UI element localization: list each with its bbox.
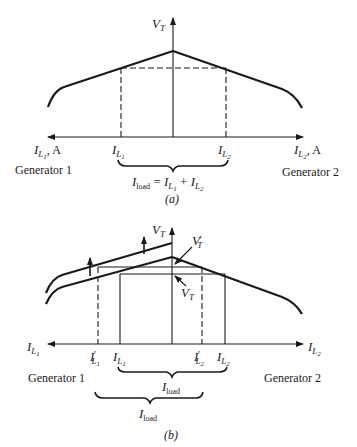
load-brace-upper [118, 367, 227, 377]
generator1-curve [48, 51, 173, 107]
vt-axis-label: VT [152, 16, 166, 33]
vt-label: VT [181, 285, 195, 302]
generator2-label: Generator 2 [282, 165, 339, 179]
load-brace [118, 160, 228, 171]
tick-il2: IL2 [217, 142, 231, 161]
generator1-label-b: Generator 1 [28, 371, 85, 385]
tick-il1-b: IL1 [112, 349, 126, 368]
load-brace-lower [95, 392, 203, 403]
load-label-upper: Iload [161, 379, 180, 396]
caption-b: (b) [164, 428, 178, 442]
tick-il1-prime: I′L1 [89, 349, 100, 368]
generator2-label-b: Generator 2 [264, 371, 321, 385]
generator1-original-curve [46, 257, 172, 304]
tick-il2-b: IL2 [216, 349, 230, 368]
tick-il2-prime: I′L2 [193, 349, 205, 368]
parallel-generators-diagram: VT IL1, A IL2, A IL1 IL2 Generator 1 Gen… [0, 0, 357, 447]
vt-axis-label-b: VT [152, 222, 166, 239]
load-equation: Iload = IL1 + IL2 [131, 174, 204, 193]
caption-a: (a) [165, 192, 179, 206]
generator1-label: Generator 1 [15, 163, 72, 177]
panel-b: VT V′T VT IL1 IL2 I′L1 IL1 I′L2 [26, 222, 321, 442]
generator2-curve [173, 51, 302, 108]
vt-prime-label: V′T [192, 233, 203, 250]
load-label-lower: Iload [138, 406, 157, 423]
tick-il1: IL1 [111, 142, 125, 161]
right-axis-label-b: IL2 [307, 339, 321, 358]
left-axis-label-b: IL1 [26, 339, 40, 358]
right-axis-label: IL2, A [293, 142, 321, 161]
generator2-curve-b [172, 257, 302, 314]
left-axis-label: IL1, A [33, 142, 61, 161]
panel-a: VT IL1, A IL2, A IL1 IL2 Generator 1 Gen… [15, 16, 339, 206]
